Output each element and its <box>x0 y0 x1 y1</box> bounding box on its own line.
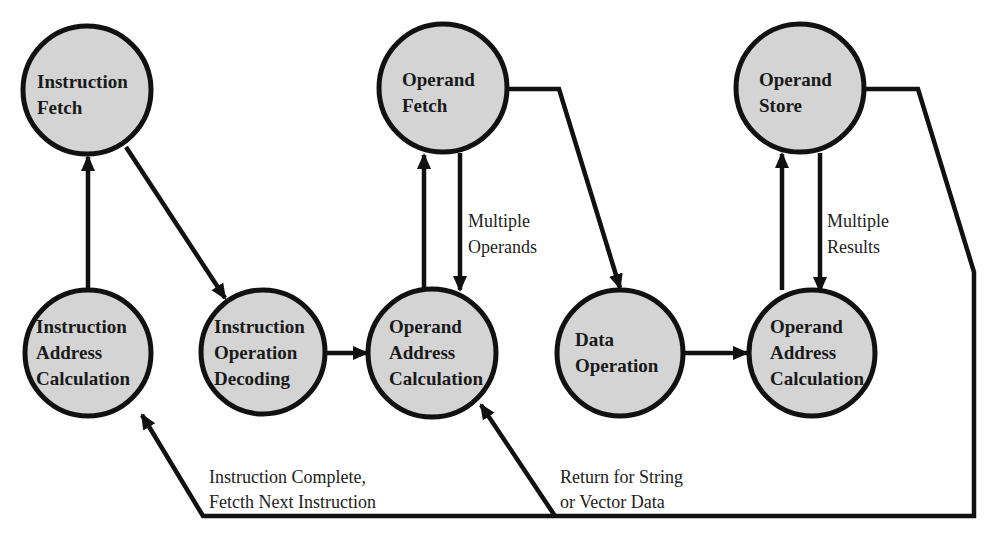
node-label-line: Operand <box>759 69 832 90</box>
node-instruction-operation-decoding: Instruction Operation Decoding <box>201 290 325 414</box>
label-multiple-operands: Multiple Operands <box>468 211 537 257</box>
node-label-line: Calculation <box>770 368 864 389</box>
node-label-line: Operand <box>389 316 462 337</box>
node-label-line: Store <box>759 95 802 116</box>
node-operand-fetch: Operand Fetch <box>379 24 507 152</box>
node-label-line: Instruction <box>37 71 128 92</box>
edge-if-to-iod <box>126 147 225 298</box>
node-label-line: Decoding <box>214 368 291 389</box>
node-label-line: Operation <box>214 342 298 363</box>
node-operand-address-calculation-1: Operand Address Calculation <box>368 289 496 417</box>
node-operand-address-calculation-2: Operand Address Calculation <box>749 290 875 416</box>
label-line: Operands <box>468 237 537 257</box>
label-instruction-complete: Instruction Complete, Fetcth Next Instru… <box>209 467 376 512</box>
node-label-line: Fetch <box>402 95 448 116</box>
node-label-line: Operation <box>575 355 659 376</box>
label-line: Return for String <box>560 467 683 487</box>
node-instruction-address-calculation: Instruction Address Calculation <box>25 290 151 416</box>
node-label-line: Calculation <box>389 368 483 389</box>
instruction-cycle-diagram: Instruction Fetch Operand Fetch Operand … <box>0 0 1001 539</box>
edge-return-to-oac1 <box>481 405 555 516</box>
node-operand-store: Operand Store <box>736 24 864 152</box>
node-label-line: Address <box>389 342 455 363</box>
node-instruction-fetch: Instruction Fetch <box>23 26 151 154</box>
label-return-string-vector: Return for String or Vector Data <box>560 467 688 512</box>
node-label-line: Instruction <box>214 316 305 337</box>
label-line: Results <box>827 237 880 257</box>
label-multiple-results: Multiple Results <box>827 211 894 257</box>
node-label-line: Calculation <box>36 368 130 389</box>
node-label-line: Address <box>770 342 836 363</box>
node-label-line: Address <box>36 342 102 363</box>
label-line: Fetcth Next Instruction <box>209 492 376 512</box>
label-line: Instruction Complete, <box>209 467 366 487</box>
node-label-line: Fetch <box>37 97 83 118</box>
node-label-line: Data <box>575 329 615 350</box>
node-label-line: Operand <box>402 69 475 90</box>
label-line: Multiple <box>468 211 530 231</box>
edge-of-to-do <box>507 89 620 288</box>
label-line: or Vector Data <box>560 492 665 512</box>
label-line: Multiple <box>827 211 889 231</box>
node-label-line: Operand <box>770 316 843 337</box>
node-data-operation: Data Operation <box>557 290 683 416</box>
node-label-line: Instruction <box>36 316 127 337</box>
